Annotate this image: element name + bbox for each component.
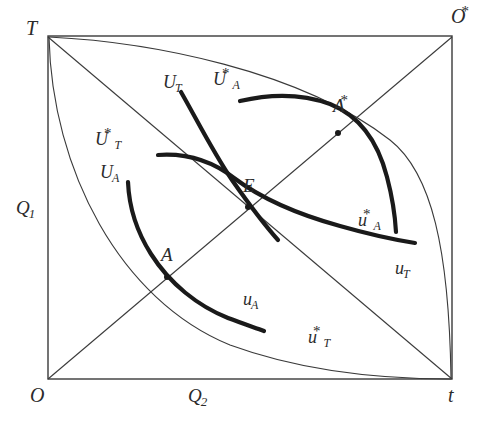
- curve-label-u-t-star-sub: T: [115, 138, 122, 152]
- curve-label-u-t-star-sup: *: [104, 125, 112, 141]
- curve-label-lower-u-a-star-sup: *: [363, 206, 371, 222]
- curve-label-u-a-sub: A: [112, 171, 119, 185]
- curve-label-lower-u-a: uA: [243, 290, 259, 308]
- curve-label-u-a-star: U*A: [213, 70, 241, 88]
- curve-label-lower-u-a-sub: A: [251, 298, 258, 312]
- label-origin-o-star-sup: *: [461, 3, 469, 19]
- curve-label-u-a: UA: [100, 163, 120, 181]
- point-label-e: E: [243, 176, 255, 195]
- curve-label-u-t: UT: [163, 73, 183, 91]
- axis-label-q1-sub: 1: [29, 206, 36, 221]
- label-origin-t-lower-base: t: [448, 384, 454, 406]
- axis-label-q2: Q2: [188, 386, 208, 405]
- point-label-e-base: E: [243, 175, 255, 196]
- axis-label-q2-base: Q: [188, 385, 202, 406]
- axis-label-q1: Q1: [16, 198, 36, 217]
- label-origin-t-lower: t: [448, 385, 454, 405]
- label-origin-o-base: O: [30, 384, 44, 406]
- indifference-curve-u-t: [181, 92, 278, 240]
- curve-label-lower-u-a-star-sub: A: [374, 219, 381, 233]
- curve-label-u-a-star-sub: A: [233, 78, 240, 92]
- curve-label-u-a-star-sup: *: [222, 65, 230, 81]
- point-label-a-star: A*: [333, 96, 352, 115]
- point-marker-a-star: [335, 130, 341, 136]
- axis-label-q2-sub: 2: [201, 394, 208, 409]
- curve-label-u-t-star: U*T: [95, 130, 122, 148]
- label-origin-t-base: T: [26, 17, 37, 39]
- point-label-a: A: [161, 245, 173, 264]
- curve-label-lower-u-t: uT: [395, 259, 411, 277]
- point-marker-a: [164, 274, 170, 280]
- curve-label-lower-u-t-star-sub: T: [324, 336, 331, 350]
- point-label-a-star-sup: *: [341, 92, 349, 108]
- diagram-canvas: [0, 0, 486, 428]
- point-marker-e: [245, 204, 251, 210]
- label-origin-t: T: [26, 18, 37, 38]
- curve-label-lower-u-t-sub: T: [403, 267, 410, 281]
- axis-label-q1-base: Q: [16, 197, 30, 218]
- edgeworth-box-figure: O T O* t Q1 Q2 E A A* UT U*A U*T UA u*A …: [0, 0, 486, 428]
- curve-label-lower-u-t-star-sup: *: [313, 323, 321, 339]
- point-label-a-base: A: [161, 244, 173, 265]
- curve-label-lower-u-a-star: u*A: [358, 211, 382, 229]
- label-origin-o-star: O*: [451, 6, 473, 26]
- label-origin-o: O: [30, 385, 44, 405]
- curve-label-lower-u-t-star: u*T: [308, 328, 331, 346]
- curve-label-u-t-sub: T: [175, 81, 182, 95]
